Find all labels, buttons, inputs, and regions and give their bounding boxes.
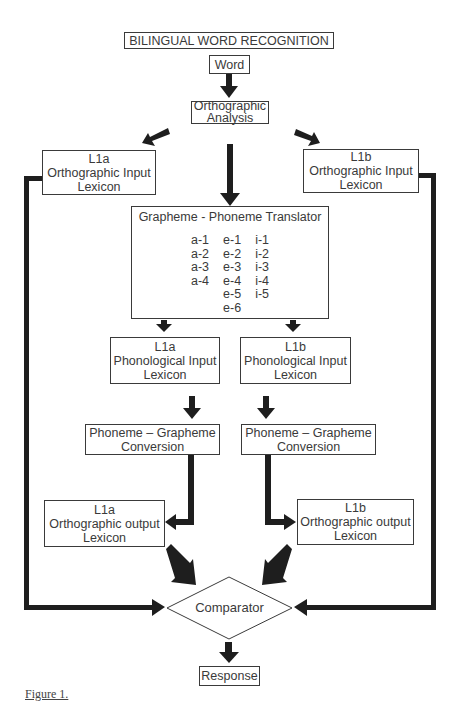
grapheme-item: e-6: [223, 302, 241, 316]
node-l1a-orthographic-output-lexicon: L1a Orthographic output Lexicon: [44, 500, 165, 547]
arrow-l1a-phon-to-pgc: [183, 396, 201, 419]
node-label-line: L1a: [155, 340, 176, 354]
grapheme-item: i-2: [255, 248, 269, 262]
node-label-line: Conversion: [121, 440, 184, 454]
diagram-canvas: BILINGUAL WORD RECOGNITION Word Orthogra…: [0, 0, 459, 716]
node-label-line: Orthographic output: [300, 515, 411, 529]
diagram-title-text: BILINGUAL WORD RECOGNITION: [129, 34, 329, 48]
grapheme-item: e-2: [223, 248, 241, 262]
node-l1b-orthographic-output-lexicon: L1b Orthographic output Lexicon: [297, 499, 414, 545]
node-word-label: Word: [215, 58, 245, 72]
grapheme-item: a-3: [191, 261, 209, 275]
arrow-analysis-to-gpt: [220, 144, 240, 206]
grapheme-item: e-5: [223, 288, 241, 302]
gpt-column-a: a-1 a-2 a-3 a-4: [191, 234, 209, 315]
node-label-line: Conversion: [277, 440, 340, 454]
node-label-line: Lexicon: [77, 180, 120, 194]
node-label-line: L1b: [285, 340, 306, 354]
node-label-line: Lexicon: [334, 529, 377, 543]
node-label-line: L1b: [345, 501, 366, 515]
arrow-gpt-to-l1a-phon: [156, 320, 172, 332]
figure-caption: Figure 1.: [25, 687, 68, 702]
grapheme-item: i-4: [255, 275, 269, 289]
arrow-pgc-to-l1b-output: [265, 454, 296, 530]
node-l1b-phonological-input-lexicon: L1b Phonological Input Lexicon: [240, 337, 351, 384]
node-label-line: Phonological Input: [244, 354, 347, 368]
grapheme-item: i-1: [255, 234, 269, 248]
grapheme-item: a-1: [191, 234, 209, 248]
node-response-label: Response: [201, 669, 257, 683]
node-label-line: L1a: [94, 503, 115, 517]
arrow-l1b-output-to-comparator: [262, 544, 292, 585]
node-label-line: Analysis: [207, 113, 254, 125]
node-response: Response: [199, 666, 260, 686]
arrow-word-to-analysis: [220, 74, 238, 98]
grapheme-item: a-4: [191, 275, 209, 289]
node-grapheme-phoneme-translator: Grapheme - Phoneme Translator a-1 a-2 a-…: [131, 206, 329, 319]
arrow-comparator-to-response: [219, 642, 239, 663]
node-l1b-phoneme-grapheme-conversion: Phoneme – Grapheme Conversion: [241, 424, 376, 455]
node-label-line: Phonological Input: [114, 354, 217, 368]
gpt-column-e: e-1 e-2 e-3 e-4 e-5 e-6: [223, 234, 241, 315]
node-label-line: Orthographic Input: [309, 164, 413, 178]
node-label-line: Phoneme – Grapheme: [245, 426, 371, 440]
node-label-line: Lexicon: [143, 368, 186, 382]
arrow-analysis-to-l1a-input: [142, 128, 170, 146]
arrow-l1b-phon-to-pgc: [257, 396, 275, 419]
node-label-line: L1b: [351, 150, 372, 164]
node-label-line: Orthographic Input: [47, 166, 151, 180]
node-word: Word: [209, 55, 250, 74]
grapheme-item: e-4: [223, 275, 241, 289]
node-label-line: Phoneme – Grapheme: [89, 426, 215, 440]
grapheme-item: a-2: [191, 248, 209, 262]
arrow-gpt-to-l1b-phon: [285, 320, 301, 332]
node-label-line: Lexicon: [274, 368, 317, 382]
grapheme-item: i-5: [255, 288, 269, 302]
diagram-title: BILINGUAL WORD RECOGNITION: [124, 32, 334, 49]
node-orthographic-analysis: Orthographic Analysis: [191, 101, 269, 124]
node-label-line: Orthographic output: [49, 517, 160, 531]
arrow-analysis-to-l1b-input: [294, 129, 320, 146]
node-label-line: Lexicon: [339, 178, 382, 192]
grapheme-item: e-1: [223, 234, 241, 248]
gpt-grapheme-columns: a-1 a-2 a-3 a-4 e-1 e-2 e-3 e-4 e-5 e-6 …: [191, 234, 269, 315]
node-l1a-phoneme-grapheme-conversion: Phoneme – Grapheme Conversion: [85, 424, 220, 455]
arrow-l1a-output-to-comparator: [166, 544, 196, 585]
node-label-line: L1a: [89, 152, 110, 166]
gpt-column-i: i-1 i-2 i-3 i-4 i-5: [255, 234, 269, 315]
grapheme-item: e-3: [223, 261, 241, 275]
arrow-pgc-to-l1a-output: [165, 454, 194, 530]
comparator-label: Comparator: [167, 600, 292, 615]
node-l1b-orthographic-input-lexicon: L1b Orthographic Input Lexicon: [303, 149, 419, 193]
node-label-line: Lexicon: [83, 531, 126, 545]
grapheme-item: i-3: [255, 261, 269, 275]
gpt-title: Grapheme - Phoneme Translator: [139, 210, 322, 224]
node-l1a-phonological-input-lexicon: L1a Phonological Input Lexicon: [110, 337, 220, 384]
node-l1a-orthographic-input-lexicon: L1a Orthographic Input Lexicon: [42, 150, 156, 195]
